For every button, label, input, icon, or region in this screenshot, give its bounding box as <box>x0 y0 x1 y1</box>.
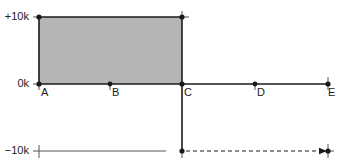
point-label-b: B <box>112 87 119 98</box>
point-a-top <box>36 14 41 19</box>
y-label-plus-10k: +10k <box>3 11 29 22</box>
shaded-region <box>39 17 182 84</box>
point-c-bottom <box>179 148 184 153</box>
y-label-minus-10k: −10k <box>3 145 29 156</box>
point-label-e: E <box>328 87 335 98</box>
diagram-canvas: +10k 0k −10k A B C D E <box>0 0 343 164</box>
point-c-top <box>179 14 184 19</box>
point-label-d: D <box>257 87 265 98</box>
position-diagram <box>0 0 343 164</box>
point-label-a: A <box>41 87 48 98</box>
point-label-c: C <box>184 87 192 98</box>
y-label-0k: 0k <box>3 78 29 89</box>
point-e-bottom <box>325 148 330 153</box>
